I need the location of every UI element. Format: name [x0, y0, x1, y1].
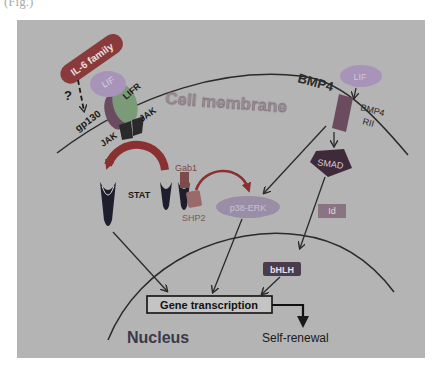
self-renewal-label: Self-renewal [262, 331, 329, 345]
shp2-label: SHP2 [182, 213, 206, 223]
id-label: Id [328, 206, 336, 216]
stat-label: STAT [128, 190, 151, 200]
shp2-protein [186, 190, 203, 208]
figure-caption-fragment: (Fig.) [4, 0, 33, 10]
signaling-pathway-figure: (Fig.) Cell membrane IL-6 family [0, 0, 440, 376]
bhlh-label: bHLH [270, 265, 294, 275]
p38-erk-label: p38-ERK [230, 203, 267, 213]
question-mark: ? [64, 88, 72, 103]
gab1-label: Gab1 [175, 163, 197, 173]
nucleus-label: Nucleus [127, 329, 189, 346]
pathway-diagram: Cell membrane IL-6 family ? LIF LIFR gp1… [0, 0, 440, 376]
gene-transcription-label: Gene transcription [160, 299, 258, 311]
lif-right-label: LIF [353, 72, 367, 82]
gab1-protein [180, 172, 189, 188]
